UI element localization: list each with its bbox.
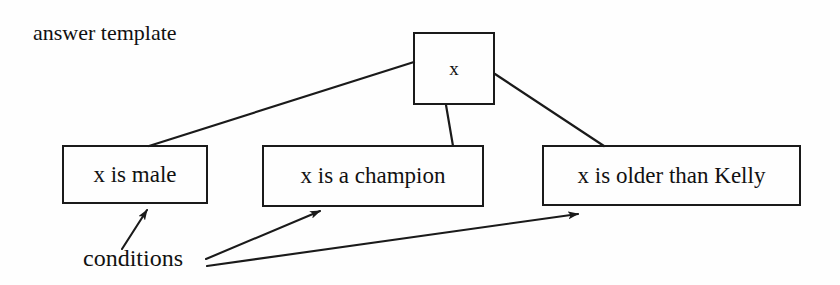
- edge-root-to-male: [149, 62, 414, 146]
- condition-box-x-is-older-than-kelly: x is older than Kelly: [542, 145, 801, 206]
- condition-box-x-is-a-champion: x is a champion: [262, 145, 484, 207]
- conditions-caption: conditions: [83, 245, 183, 272]
- arrow-conditions-to-older-than-kelly: [207, 214, 578, 266]
- condition-box-x-is-male: x is male: [62, 145, 208, 204]
- arrow-conditions-to-male: [122, 210, 147, 249]
- condition-label: x is a champion: [301, 163, 446, 189]
- root-variable-label: x: [449, 58, 459, 80]
- edge-root-to-champion: [446, 105, 453, 146]
- answer-template-diagram: answer template x x is male x is a champ…: [0, 0, 840, 285]
- root-variable-box: x: [413, 32, 495, 105]
- edge-root-to-older-than-kelly: [495, 74, 604, 146]
- answer-template-caption: answer template: [33, 20, 177, 46]
- condition-label: x is male: [93, 162, 176, 188]
- condition-label: x is older than Kelly: [578, 163, 766, 189]
